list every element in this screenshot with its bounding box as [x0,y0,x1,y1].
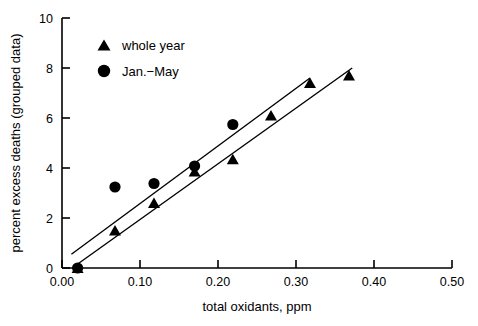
legend: whole year Jan.−May [98,38,186,79]
y-tick-label: 10 [39,12,53,26]
x-tick-label: 0.30 [284,275,308,289]
fit-line-whole-year [72,68,352,268]
legend-marker-triangle [98,40,111,51]
x-axis-title: total oxidants, ppm [202,299,311,314]
legend-label-jan-may: Jan.−May [122,64,179,79]
y-tick-label: 0 [46,262,53,276]
x-tick-label: 0.10 [128,275,152,289]
legend-marker-circle [98,65,110,77]
y-tick-label: 4 [46,162,53,176]
scatter-plot: 0 2 4 6 8 10 0.00 0.10 0.20 0.30 0.40 0.… [0,0,478,326]
y-axis-ticks [62,18,70,268]
x-tick-labels: 0.00 0.10 0.20 0.30 0.40 0.50 [50,275,464,289]
y-axis-title: percent excess deaths (grouped data) [8,34,23,253]
x-axis-ticks [62,260,452,268]
y-tick-label: 2 [46,212,53,226]
y-tick-label: 6 [46,112,53,126]
legend-label-whole-year: whole year [121,38,186,53]
y-tick-labels: 0 2 4 6 8 10 [39,12,53,276]
y-tick-label: 8 [46,62,53,76]
chart-container: 0 2 4 6 8 10 0.00 0.10 0.20 0.30 0.40 0.… [0,0,478,326]
x-tick-label: 0.50 [440,275,464,289]
axes [62,18,452,268]
x-tick-label: 0.00 [50,275,74,289]
x-tick-label: 0.40 [362,275,386,289]
series-whole-year-points [72,70,355,273]
x-tick-label: 0.20 [206,275,230,289]
